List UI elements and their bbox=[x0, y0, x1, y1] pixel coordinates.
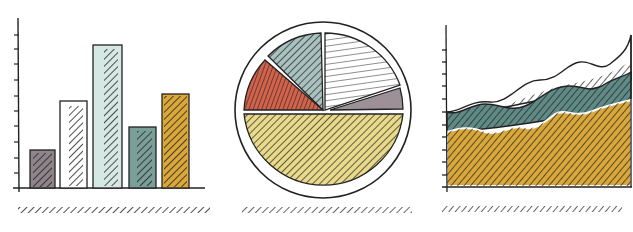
area-chart-panel bbox=[430, 0, 633, 232]
area-chart bbox=[430, 0, 633, 232]
base-hatch bbox=[242, 207, 412, 213]
bars bbox=[30, 45, 189, 188]
pie-chart-panel bbox=[220, 0, 430, 232]
y-axis bbox=[14, 18, 19, 192]
pie-chart bbox=[220, 0, 430, 232]
bar-chart bbox=[0, 0, 220, 232]
bar-chart-panel bbox=[0, 0, 220, 232]
y-axis bbox=[442, 25, 447, 192]
base-hatch bbox=[18, 207, 210, 213]
base-hatch bbox=[442, 206, 622, 212]
